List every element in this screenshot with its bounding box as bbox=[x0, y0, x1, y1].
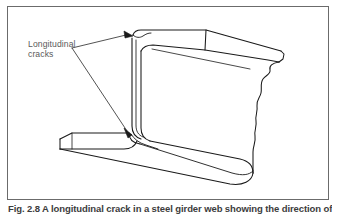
figure-root: Longitudinal cracks Fig. 2.8 A longitudi… bbox=[0, 0, 338, 214]
crack-label-line-2: cracks bbox=[28, 50, 53, 60]
figure-border bbox=[7, 6, 329, 200]
figure-caption: Fig. 2.8 A longitudinal crack in a steel… bbox=[8, 203, 332, 214]
